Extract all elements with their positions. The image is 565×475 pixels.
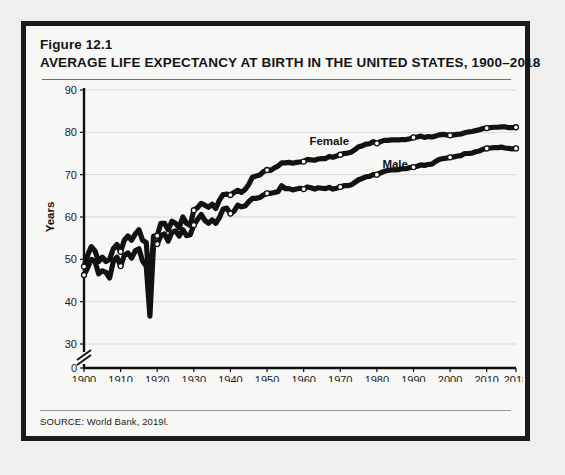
series-marker	[228, 211, 233, 216]
svg-text:40: 40	[65, 296, 77, 308]
series-marker	[265, 191, 270, 196]
svg-text:1950: 1950	[255, 374, 279, 382]
svg-text:1930: 1930	[182, 374, 206, 382]
figure-frame: Figure 12.1 AVERAGE LIFE EXPECTANCY AT B…	[21, 21, 530, 441]
series-line-male	[84, 147, 516, 316]
svg-text:1990: 1990	[401, 374, 425, 382]
svg-text:Years: Years	[44, 202, 56, 233]
source-text: SOURCE: World Bank, 2019l.	[40, 416, 511, 427]
series-marker	[374, 141, 379, 146]
series-marker	[191, 223, 196, 228]
series-marker	[228, 192, 233, 197]
series-marker	[301, 159, 306, 164]
series-marker	[155, 233, 160, 238]
series-marker	[514, 125, 519, 130]
svg-text:0: 0	[71, 362, 77, 374]
series-marker	[448, 155, 453, 160]
svg-text:1980: 1980	[365, 374, 389, 382]
series-marker	[118, 249, 123, 254]
series-label-female: Female	[309, 135, 349, 147]
series-marker	[82, 264, 87, 269]
svg-text:1970: 1970	[328, 374, 352, 382]
svg-text:80: 80	[65, 126, 77, 138]
source-row: SOURCE: World Bank, 2019l.	[26, 410, 525, 427]
series-marker	[265, 168, 270, 173]
series-marker	[411, 135, 416, 140]
series-marker	[484, 126, 489, 131]
series-marker	[191, 208, 196, 213]
svg-text:1900: 1900	[72, 374, 96, 382]
svg-text:2018: 2018	[504, 374, 523, 382]
series-marker	[448, 133, 453, 138]
series-marker	[338, 152, 343, 157]
svg-text:2000: 2000	[438, 374, 462, 382]
svg-text:1960: 1960	[291, 374, 315, 382]
series-marker	[82, 272, 87, 277]
chart-plot-area: 0304050607080901900191019201930194019501…	[40, 82, 513, 382]
svg-text:1920: 1920	[145, 374, 169, 382]
series-marker	[374, 172, 379, 177]
series-marker	[155, 242, 160, 247]
svg-text:60: 60	[65, 211, 77, 223]
svg-text:90: 90	[65, 84, 77, 96]
series-marker	[411, 165, 416, 170]
svg-text:50: 50	[65, 253, 77, 265]
life-expectancy-line-chart: 0304050607080901900191019201930194019501…	[40, 82, 523, 382]
svg-text:30: 30	[65, 338, 77, 350]
series-marker	[301, 187, 306, 192]
svg-text:2010: 2010	[474, 374, 498, 382]
source-divider	[40, 410, 511, 411]
series-marker	[118, 264, 123, 269]
series-marker	[484, 146, 489, 151]
series-marker	[514, 146, 519, 151]
figure-number: Figure 12.1	[40, 36, 513, 53]
series-label-male: Male	[382, 158, 408, 170]
svg-text:1940: 1940	[218, 374, 242, 382]
title-divider	[42, 79, 511, 80]
svg-text:1910: 1910	[108, 374, 132, 382]
series-marker	[338, 184, 343, 189]
svg-text:70: 70	[65, 169, 77, 181]
figure-title: AVERAGE LIFE EXPECTANCY AT BIRTH IN THE …	[40, 54, 513, 72]
